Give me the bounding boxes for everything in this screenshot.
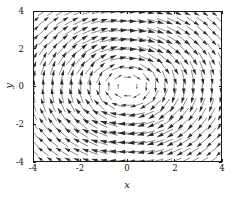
ytick-mark-3 xyxy=(33,48,36,49)
xtick-label-3: 2 xyxy=(172,164,177,173)
xtick-label-2: 0 xyxy=(124,164,129,173)
vector-field-figure: -4 -2 0 2 4 4 2 0 -2 -4 x y xyxy=(0,0,238,197)
ytick-label-0: 4 xyxy=(19,7,24,16)
ytick-mark-4 xyxy=(33,11,36,12)
x-axis-title: x xyxy=(124,180,130,190)
xtick-mark-top-2 xyxy=(127,11,128,14)
xtick-mark-2 xyxy=(127,159,128,162)
xtick-mark-top-1 xyxy=(80,11,81,14)
ytick-label-1: 2 xyxy=(19,45,24,54)
ytick-mark-1 xyxy=(33,124,36,125)
xtick-label-0: -4 xyxy=(29,164,37,173)
quiver-field xyxy=(34,12,221,161)
ytick-label-2: 0 xyxy=(19,82,24,91)
ytick-mark-right-1 xyxy=(219,124,222,125)
ytick-mark-right-4 xyxy=(219,11,222,12)
ytick-mark-right-2 xyxy=(219,86,222,87)
xtick-mark-3 xyxy=(174,159,175,162)
xtick-mark-1 xyxy=(80,159,81,162)
ytick-mark-2 xyxy=(33,86,36,87)
ytick-mark-right-3 xyxy=(219,48,222,49)
xtick-label-4: 4 xyxy=(219,164,224,173)
xtick-label-1: -2 xyxy=(76,164,84,173)
ytick-label-3: -2 xyxy=(16,120,24,129)
ytick-mark-right-0 xyxy=(219,162,222,163)
xtick-mark-top-3 xyxy=(174,11,175,14)
ytick-mark-0 xyxy=(33,162,36,163)
plot-frame xyxy=(33,11,222,162)
y-axis-title: y xyxy=(4,83,14,89)
ytick-label-4: -4 xyxy=(16,158,24,167)
